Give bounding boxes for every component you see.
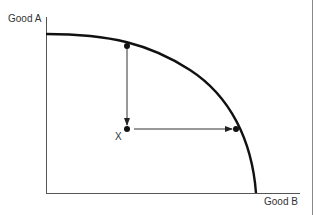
point-x-label: X (115, 131, 122, 142)
ppf-curve (46, 34, 256, 193)
ppf-diagram (0, 0, 316, 215)
point-x (124, 126, 130, 132)
x-axis-label: Good B (264, 196, 298, 207)
point-top (124, 43, 130, 49)
y-axis-label: Good A (8, 13, 41, 24)
point-right (233, 126, 239, 132)
